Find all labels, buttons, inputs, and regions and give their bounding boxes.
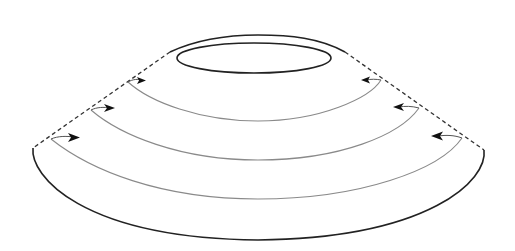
cone-diagram: [0, 0, 515, 251]
arrow-left-icon: [438, 135, 462, 138]
left-dashed-edge: [33, 52, 170, 148]
flow-curve-2: [91, 103, 419, 160]
top-opening-ellipse: [177, 43, 331, 73]
bottom-rim-arc: [33, 148, 484, 240]
flow-curve-1: [128, 77, 381, 122]
arrow-left-icon: [399, 106, 419, 108]
arrowhead-right-icon: [68, 133, 80, 142]
right-dashed-edge: [345, 52, 484, 150]
arrowhead-right-icon: [137, 77, 146, 84]
flow-curve-3: [51, 132, 462, 200]
arrowhead-right-icon: [104, 104, 115, 112]
